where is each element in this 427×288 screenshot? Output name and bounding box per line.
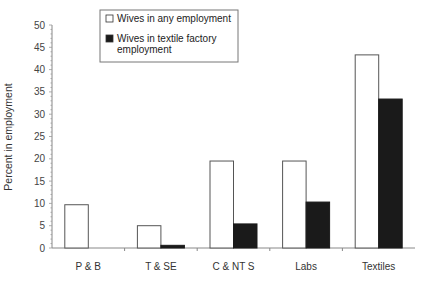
legend-swatch-textile-employment	[106, 35, 113, 42]
bar-any-employment	[210, 161, 234, 248]
legend-label: employment	[117, 44, 172, 55]
bar-any-employment	[355, 55, 379, 248]
legend: Wives in any employmentWives in textile …	[100, 10, 238, 62]
bar-textile-employment	[379, 99, 403, 248]
y-tick-label: 5	[39, 220, 45, 231]
bar-any-employment	[65, 205, 89, 248]
bar-any-employment	[283, 161, 307, 248]
y-tick-label: 40	[34, 64, 46, 75]
x-category-label: Textiles	[362, 261, 395, 272]
y-tick-label: 10	[34, 198, 46, 209]
bar-textile-employment	[161, 245, 185, 248]
bar-any-employment	[137, 226, 161, 248]
bar-textile-employment	[234, 224, 258, 248]
y-tick-label: 35	[34, 86, 46, 97]
y-tick-label: 20	[34, 153, 46, 164]
y-axis: 05101520253035404550	[34, 20, 52, 254]
legend-label: Wives in any employment	[117, 13, 231, 24]
bar-textile-employment	[306, 202, 330, 248]
legend-label: Wives in textile factory	[117, 33, 216, 44]
y-tick-label: 0	[39, 243, 45, 254]
bars	[65, 55, 402, 248]
legend-swatch-any-employment	[106, 15, 113, 22]
y-tick-label: 25	[34, 131, 46, 142]
y-axis-title: Percent in employment	[2, 83, 14, 190]
y-tick-label: 15	[34, 176, 46, 187]
y-tick-label: 50	[34, 20, 46, 31]
x-category-label: C & NT S	[212, 261, 254, 272]
x-axis: P & BT & SEC & NT SLabsTextiles	[52, 248, 415, 272]
x-category-label: P & B	[76, 261, 102, 272]
bar-chart: 05101520253035404550 P & BT & SEC & NT S…	[0, 0, 427, 288]
x-category-label: Labs	[295, 261, 317, 272]
y-tick-label: 30	[34, 109, 46, 120]
y-tick-label: 45	[34, 42, 46, 53]
x-category-label: T & SE	[145, 261, 177, 272]
